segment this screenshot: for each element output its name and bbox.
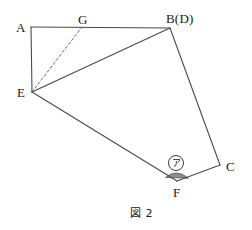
vertex-label-e: E: [17, 86, 25, 99]
angle-region-marker: ア: [168, 155, 184, 171]
edge-E-B: [32, 28, 170, 92]
vertex-label-a: A: [16, 21, 26, 34]
figure-caption: 図 2: [130, 208, 153, 219]
vertex-label-c: C: [226, 160, 235, 173]
angle-region-marker-label: ア: [172, 159, 181, 168]
edge-F-E: [32, 92, 177, 181]
geometry-figure: A G B(D) C F E ア 図 2: [0, 0, 252, 230]
vertex-label-bd: B(D): [166, 12, 194, 25]
figure-canvas: [0, 0, 252, 230]
edge-E-G: [32, 27, 82, 92]
solid-edge-group: [31, 27, 220, 181]
vertex-label-f: F: [173, 186, 180, 199]
edge-A-B: [31, 27, 170, 28]
edge-A-E: [31, 27, 32, 92]
edge-C-F: [177, 165, 220, 181]
vertex-label-g: G: [78, 13, 88, 26]
dashed-edge-group: [32, 27, 82, 92]
edge-B-C: [170, 28, 220, 165]
